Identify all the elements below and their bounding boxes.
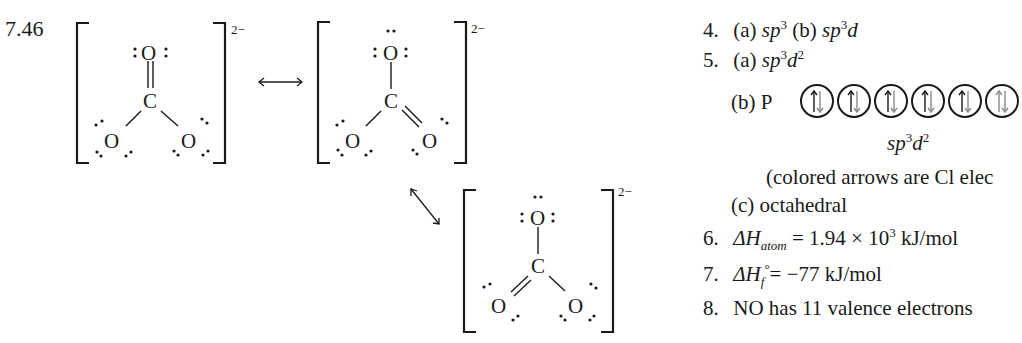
hybridization-tail: d	[847, 18, 858, 42]
unit: kJ/mol	[896, 226, 958, 250]
hybridization: sp	[887, 131, 906, 155]
enthalpy-symbol: ΔH	[733, 262, 761, 286]
answer-text: NO has 11 valence electrons	[733, 296, 972, 320]
answer-5c: (c) octahedral	[731, 195, 847, 216]
orbital-caption: sp3d2	[887, 133, 929, 154]
answer-4: 4. (a) sp3 (b) sp3d	[703, 20, 858, 41]
hybridization: sp	[822, 18, 841, 42]
hybridization-tail: d	[787, 48, 798, 72]
hybridization-tail: d	[912, 131, 923, 155]
subscript: f	[761, 274, 765, 289]
item-number: 6.	[703, 228, 728, 249]
item-number: 4.	[703, 20, 728, 41]
item-number: 8.	[703, 298, 728, 319]
answer-6: 6. ΔHatom = 1.94 × 103 kJ/mol	[703, 228, 958, 249]
hybridization: sp	[762, 48, 781, 72]
superscript: 3	[781, 17, 788, 32]
enthalpy-symbol: ΔH	[733, 226, 761, 250]
subscript: atom	[761, 238, 787, 253]
answer-5b-label: (b) P	[731, 92, 772, 113]
answers-column: 4. (a) sp3 (b) sp3d 5. (a) sp3d2 (b) P	[0, 0, 1022, 343]
item-number: 5.	[703, 50, 728, 71]
value: = 1.94 × 10	[787, 226, 889, 250]
answer-7: 7. ΔHf°= −77 kJ/mol	[703, 264, 882, 285]
answer-5b-note: (colored arrows are Cl elec	[766, 167, 993, 188]
superscript: 2	[923, 130, 930, 145]
value: = −77 kJ/mol	[770, 262, 882, 286]
part-label: (a)	[733, 18, 756, 42]
orbital-diagram	[799, 83, 1022, 123]
hybridization: sp	[762, 18, 781, 42]
part-label: (a)	[733, 48, 756, 72]
item-number: 7.	[703, 264, 728, 285]
answer-8: 8. NO has 11 valence electrons	[703, 298, 973, 319]
answer-5a: 5. (a) sp3d2	[703, 50, 804, 71]
part-label: (b)	[792, 18, 817, 42]
superscript: 2	[798, 47, 805, 62]
